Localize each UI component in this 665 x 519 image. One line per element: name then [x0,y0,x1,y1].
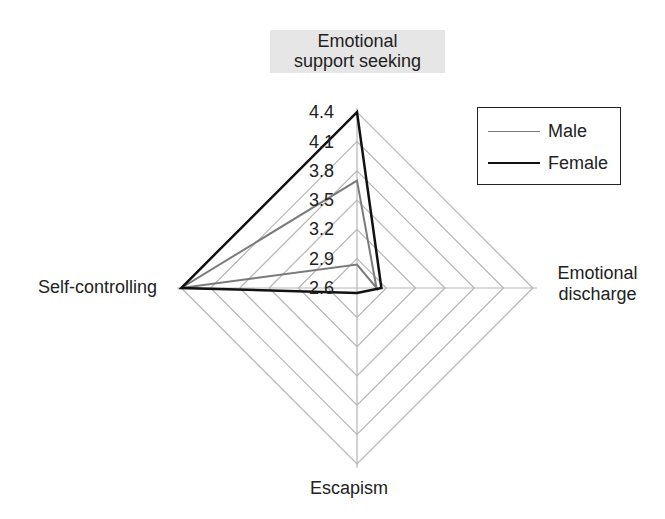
series-male [181,181,376,288]
axis-label-line: Emotional [270,31,445,51]
axis-label-emotional-support-seeking: Emotional support seeking [270,30,445,73]
tick-label: 3.5 [294,191,334,209]
legend-label: Male [548,121,587,141]
legend-swatch-female [488,162,540,164]
tick-label: 2.9 [294,250,334,268]
tick-label: 4.1 [294,133,334,151]
axis-label-line: discharge [545,284,650,305]
tick-label: 3.2 [294,220,334,238]
axis-label-line: Escapism [310,478,388,498]
legend: Male Female [477,107,621,185]
axis-label-line: Emotional [545,263,650,284]
axis-label-self-controlling: Self-controlling [38,277,157,298]
legend-item-female: Female [488,153,608,173]
legend-item-male: Male [488,121,587,141]
tick-label: 3.8 [294,162,334,180]
tick-label: 4.4 [294,103,334,121]
axis-label-emotional-discharge: Emotional discharge [545,263,650,305]
axis-label-line: Self-controlling [38,277,157,297]
axis-label-line: support seeking [270,51,445,71]
legend-label: Female [548,153,608,173]
axis-label-escapism: Escapism [310,478,388,499]
legend-swatch-male [488,131,540,132]
tick-label: 2.6 [294,279,334,297]
